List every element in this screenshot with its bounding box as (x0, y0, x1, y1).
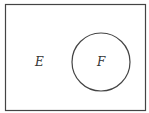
universe-rectangle (6, 5, 146, 111)
venn-diagram: E F (0, 0, 149, 113)
universe-label: E (34, 55, 44, 69)
set-f-label: F (96, 55, 106, 69)
